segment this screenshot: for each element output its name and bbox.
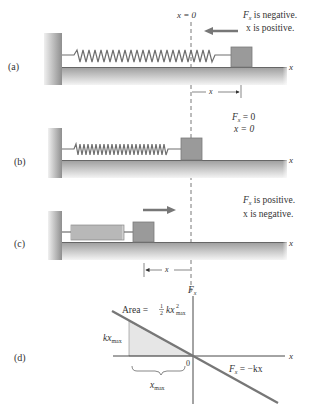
panel-d-label: (d)	[14, 352, 26, 364]
svg-text:max: max	[176, 310, 186, 316]
panel-b: (b) x Fx = 0 x = 0	[14, 112, 293, 180]
axis-label-c: x	[288, 238, 293, 248]
force-text-a: Fx is negative.	[242, 10, 297, 21]
kx-max-label: kxmax	[103, 333, 122, 344]
axis-label-b: x	[288, 155, 293, 165]
panel-c-label: (c)	[14, 238, 25, 250]
x-text-a: x is positive.	[246, 23, 294, 33]
svg-text:kx: kx	[166, 305, 175, 315]
y-axis-label: Fx	[187, 285, 197, 296]
svg-text:1: 1	[160, 303, 163, 309]
axis-label-a: x	[288, 62, 293, 72]
block-c	[133, 222, 154, 242]
xmax-brace	[132, 366, 185, 375]
dimension-label-c: x	[164, 265, 169, 274]
spring-relaxed	[62, 144, 181, 155]
svg-text:Area =: Area =	[122, 305, 148, 315]
panel-a: (a) x x = 0 Fx is negative. x is positiv…	[8, 10, 297, 98]
origin-zero-label: 0	[186, 359, 190, 368]
area-formula: Area = 1 2 kx 2 max	[122, 303, 186, 316]
force-text-c: Fx is positive.	[242, 195, 295, 206]
x-text-b: x = 0	[233, 124, 254, 134]
origin-label: x = 0	[176, 10, 197, 20]
wall-a	[44, 33, 62, 85]
force-equation-label: Fx = −kx	[228, 364, 263, 375]
panel-c: (c) x Fx is positive. x is negative. x	[14, 195, 295, 277]
force-text-b: Fx = 0	[231, 112, 256, 123]
panel-a-label: (a)	[8, 61, 19, 73]
block-a	[231, 47, 252, 67]
svg-text:2: 2	[160, 310, 163, 316]
x-axis-label: x	[288, 351, 293, 361]
xmax-label: xmax	[149, 380, 165, 391]
svg-text:2: 2	[176, 303, 179, 309]
x-text-c: x is negative.	[243, 209, 293, 219]
panel-b-label: (b)	[14, 156, 26, 168]
spring-stretched	[62, 50, 231, 62]
panel-d-graph: (d) Fx x Area = 1 2 kx 2 max kxmax 0 xma…	[14, 285, 293, 404]
spring-force-diagram: (a) x x = 0 Fx is negative. x is positiv…	[0, 0, 313, 413]
block-b	[181, 138, 202, 160]
dimension-label-a: x	[208, 87, 213, 96]
force-line	[112, 311, 278, 403]
